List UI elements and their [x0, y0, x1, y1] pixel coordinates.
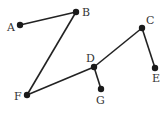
- edge-b-f: [27, 12, 76, 95]
- node-c: [139, 25, 145, 31]
- edge-d-c: [94, 28, 142, 67]
- node-f: [24, 92, 30, 98]
- edge-f-d: [27, 67, 94, 95]
- graph-diagram: ABCDEFG: [0, 0, 162, 118]
- node-label-g: G: [96, 94, 105, 107]
- node-label-b: B: [82, 6, 90, 19]
- node-g: [98, 86, 104, 92]
- node-label-e: E: [152, 72, 160, 85]
- node-label-f: F: [14, 90, 22, 103]
- edge-c-e: [142, 28, 155, 68]
- edge-d-g: [94, 67, 101, 89]
- edge-a-b: [20, 12, 76, 25]
- node-e: [152, 65, 158, 71]
- node-b: [73, 9, 79, 15]
- node-a: [17, 22, 23, 28]
- node-label-a: A: [6, 21, 16, 34]
- node-label-c: C: [146, 14, 154, 27]
- node-label-d: D: [86, 52, 95, 65]
